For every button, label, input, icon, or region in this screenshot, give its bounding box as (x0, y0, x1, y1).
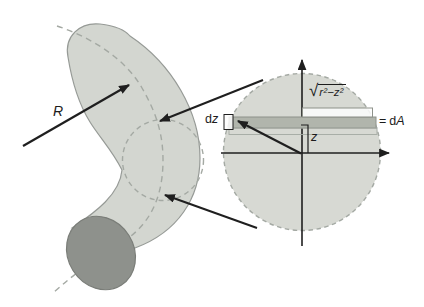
figure-canvas: R dz √ r²−z² z =dA (0, 0, 424, 307)
radical-sign: √ (309, 82, 318, 99)
dz-bracket (224, 115, 233, 130)
label-sqrt-r2-z2: √ r²−z² (309, 84, 346, 101)
label-z: z (311, 131, 317, 144)
radicand: r²−z² (318, 84, 346, 99)
label-dz: dz (205, 113, 218, 126)
diagram-svg (0, 0, 424, 307)
area-strip (229, 117, 376, 128)
torus-tube (67, 24, 200, 248)
label-R: R (53, 104, 63, 118)
label-equals-dA: =dA (379, 115, 405, 128)
sqrt-dimension-bracket (303, 108, 373, 117)
